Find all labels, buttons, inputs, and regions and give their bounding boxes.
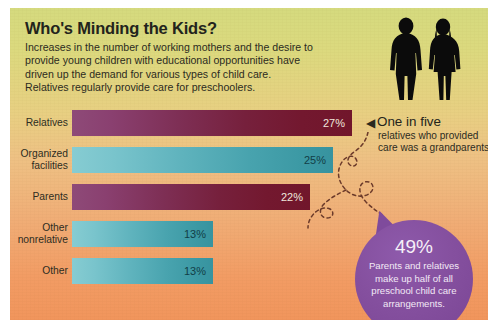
bubble-percent: 49% (355, 236, 473, 257)
bar-other: 13% (72, 258, 213, 284)
bar-value: 13% (184, 228, 206, 240)
bar-label-line: Other (10, 222, 68, 234)
callout-body: relatives who provided care was a grandp… (378, 130, 488, 155)
bar-label: Other nonrelative (10, 222, 68, 245)
bar-label: Organized facilities (10, 148, 68, 171)
bar-relatives: 27% (72, 110, 352, 136)
intro-paragraph: Increases in the number of working mothe… (25, 41, 355, 94)
bar-label-line: Organized (10, 148, 68, 160)
bar-parents: 22% (72, 184, 310, 210)
bubble-text: Parents and relatives make up half of al… (359, 260, 469, 310)
bar-label: Other (10, 265, 68, 277)
bar-label-line: Relatives (10, 117, 68, 129)
callout-headline: One in five (377, 114, 441, 129)
bar-label-line: nonrelative (10, 234, 68, 246)
bubble-text-line: arrangements. (359, 298, 469, 311)
bar-label: Relatives (10, 117, 68, 129)
intro-line: provide young children with educational … (25, 54, 355, 67)
left-arrow-icon: ◀ (366, 116, 375, 130)
bar-label-line: Parents (10, 191, 68, 203)
bubble-text-line: preschool child care (359, 285, 469, 298)
bar-other-nonrelative: 13% (72, 221, 213, 247)
two-adult-silhouettes-icon (380, 12, 476, 104)
bar-value: 22% (281, 191, 303, 203)
callout-body-line: relatives who provided (378, 130, 488, 142)
intro-line: Increases in the number of working mothe… (25, 41, 355, 54)
bar-value: 13% (184, 265, 206, 277)
bar-label-line: Other (10, 265, 68, 277)
table-row: Parents 22% (10, 184, 488, 210)
bar-organized-facilities: 25% (72, 147, 333, 173)
bar-value: 27% (323, 117, 345, 129)
bar-label-line: facilities (10, 160, 68, 172)
bubble-text-line: Parents and relatives (359, 260, 469, 273)
bar-value: 25% (304, 154, 326, 166)
intro-line: driven up the demand for various types o… (25, 68, 355, 81)
infographic-panel: Who's Minding the Kids? Increases in the… (10, 8, 488, 320)
page-title: Who's Minding the Kids? (25, 19, 217, 38)
bar-label: Parents (10, 191, 68, 203)
intro-line: Relatives regularly provide care for pre… (25, 81, 355, 94)
callout-body-line: care was a grandparents. (378, 142, 488, 154)
bubble-text-line: make up half of all (359, 273, 469, 286)
